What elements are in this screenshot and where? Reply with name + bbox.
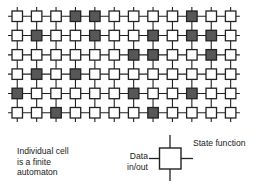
state-function-label: State function	[193, 138, 246, 149]
grid-cell	[167, 69, 178, 80]
grid-cell	[70, 50, 81, 61]
grid-cell	[187, 108, 198, 119]
legend-cell-icon	[149, 135, 193, 181]
caption-line-1: Individual cell	[17, 146, 69, 157]
grid-cell	[187, 69, 198, 80]
caption-text: Individual cell is a finite automaton	[17, 146, 69, 178]
grid-cell-active	[128, 88, 139, 99]
grid-cell-active	[148, 108, 159, 119]
grid-cell	[90, 69, 101, 80]
grid-cell	[109, 11, 120, 22]
grid-cell	[187, 50, 198, 61]
grid-cell-active	[90, 11, 101, 22]
grid-cell	[206, 108, 217, 119]
grid-cell	[90, 50, 101, 61]
grid-cell	[225, 50, 236, 61]
grid-cell-active	[187, 88, 198, 99]
grid-cell	[31, 11, 42, 22]
grid-cell-active	[187, 30, 198, 41]
grid-cell	[148, 69, 159, 80]
grid-cell	[206, 11, 217, 22]
grid-cell	[225, 108, 236, 119]
data-label-line-2: in/out	[126, 162, 148, 173]
grid-cell	[31, 88, 42, 99]
grid-cell	[90, 108, 101, 119]
grid-cell	[225, 11, 236, 22]
grid-cell	[128, 30, 139, 41]
grid-cell	[70, 30, 81, 41]
grid-cell	[167, 30, 178, 41]
grid-cell	[206, 69, 217, 80]
grid-cell-active	[187, 11, 198, 22]
grid-cell-active	[51, 108, 62, 119]
grid-cell-active	[31, 30, 42, 41]
grid-cell	[12, 30, 23, 41]
grid-cell	[167, 88, 178, 99]
automaton-grid	[8, 7, 240, 122]
grid-cell	[128, 69, 139, 80]
caption-line-2: is a finite	[17, 157, 69, 168]
grid-cell	[109, 108, 120, 119]
grid-cell	[51, 50, 62, 61]
grid-cell	[225, 30, 236, 41]
grid-cell	[51, 30, 62, 41]
grid-cell	[167, 108, 178, 119]
grid-cell	[12, 50, 23, 61]
grid-cell	[148, 11, 159, 22]
grid-cell	[109, 30, 120, 41]
grid-cell	[12, 69, 23, 80]
grid-cell	[51, 88, 62, 99]
grid-cell	[225, 88, 236, 99]
grid-cell-active	[128, 50, 139, 61]
grid-cell	[128, 11, 139, 22]
grid-cell	[70, 88, 81, 99]
grid-cell	[31, 50, 42, 61]
caption-line-3: automaton	[17, 167, 69, 178]
grid-cell-active	[148, 30, 159, 41]
grid-cell	[51, 69, 62, 80]
grid-cell	[109, 88, 120, 99]
grid-cell	[51, 11, 62, 22]
grid-cell-active	[206, 50, 217, 61]
grid-cell	[167, 50, 178, 61]
grid-cell	[206, 88, 217, 99]
grid-cell-active	[90, 30, 101, 41]
grid-cell	[225, 69, 236, 80]
grid-cell-active	[31, 69, 42, 80]
grid-cell	[90, 88, 101, 99]
grid-cell-active	[70, 69, 81, 80]
grid-cell	[167, 11, 178, 22]
grid-cell-active	[206, 30, 217, 41]
grid-cell	[12, 11, 23, 22]
grid-cell-active	[12, 88, 23, 99]
grid-cell	[109, 69, 120, 80]
grid-cell	[128, 108, 139, 119]
grid-cell	[109, 50, 120, 61]
data-in-out-label: Data in/out	[126, 151, 148, 172]
grid-cell-active	[148, 50, 159, 61]
data-label-line-1: Data	[126, 151, 148, 162]
grid-cell	[70, 108, 81, 119]
grid-cell	[12, 108, 23, 119]
grid-cell-active	[70, 11, 81, 22]
grid-cell	[31, 108, 42, 119]
grid-cell	[148, 88, 159, 99]
